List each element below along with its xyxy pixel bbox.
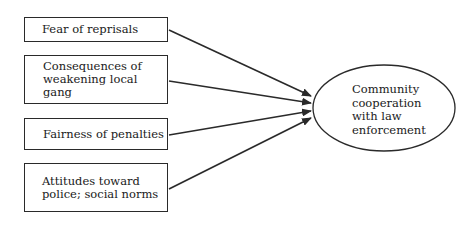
- factor-box-fairness: Fairness of penalties: [24, 118, 168, 150]
- factor-box-attitudes: Attitudes toward police; social norms: [24, 163, 168, 212]
- factor-box-consequences: Consequences of weakening local gang: [24, 55, 168, 104]
- factor-label: Attitudes toward police; social norms: [42, 175, 158, 201]
- arrow-attitudes-to-outcome: [169, 118, 311, 189]
- factor-label: Fairness of penalties: [43, 128, 164, 141]
- arrow-consequences-to-outcome: [169, 81, 311, 103]
- arrow-fairness-to-outcome: [169, 111, 311, 135]
- factor-label: Fear of reprisals: [42, 23, 138, 36]
- outcome-label: Community cooperation with law enforceme…: [352, 83, 426, 137]
- factor-label: Consequences of weakening local gang: [43, 60, 167, 99]
- factor-box-fear-of-reprisals: Fear of reprisals: [24, 17, 168, 42]
- arrow-fear-to-outcome: [169, 30, 311, 96]
